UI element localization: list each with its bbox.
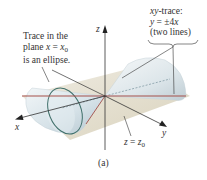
z-axis-label: z [96,24,100,35]
equals: = ±4 [154,17,174,27]
xy-annotation-line1: xy-trace: [150,6,191,17]
x-axis-arrowhead [15,115,24,121]
text: plane [23,42,46,52]
ellipse-annotation-line3: is an ellipse. [23,55,70,66]
x-axis-label: x [15,122,19,133]
ellipse-leader [42,67,49,82]
cone-traces-figure: z x y Trace in the plane x = x0 is an el… [0,0,207,180]
plane-label-leader [124,116,131,136]
xy-trace-brace [148,40,198,47]
y-axis-arrowhead [159,121,167,128]
z-axis-arrowhead [103,25,108,33]
y-axis-label: y [162,128,166,139]
ellipse-trace-annotation: Trace in the plane x = x0 is an ellipse. [23,31,70,66]
ellipse-annotation-line2: plane x = x0 [23,42,70,56]
xy-annotation-line2: y = ±4x [150,17,191,28]
figure-caption: (a) [98,158,109,169]
equals: = [128,137,138,147]
plane-z0-label: z = z0 [124,137,145,151]
ellipse-annotation-line1: Trace in the [23,31,70,42]
subscript-0: 0 [65,46,69,54]
equals: = [50,42,60,52]
subscript-0: 0 [142,141,146,149]
text: -trace: [158,6,182,16]
var-x: x [174,17,178,27]
xy-trace-annotation: xy-trace: y = ±4x (two lines) [150,6,191,38]
xy-annotation-line3: (two lines) [150,27,191,38]
